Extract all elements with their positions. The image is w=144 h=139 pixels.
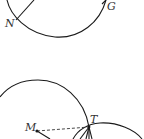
segment-m bbox=[37, 131, 50, 139]
geometry-diagram: N G M T bbox=[0, 0, 144, 139]
label-t: T bbox=[90, 113, 99, 126]
chord-line-n bbox=[16, 0, 34, 20]
top-circle-arc bbox=[7, 0, 106, 37]
top-figure: N G bbox=[4, 0, 116, 37]
label-n: N bbox=[4, 17, 15, 30]
label-g: G bbox=[107, 0, 116, 13]
label-m: M bbox=[24, 121, 37, 134]
small-circle-arc bbox=[73, 123, 142, 139]
point-t bbox=[88, 126, 91, 129]
bottom-figure: M T bbox=[0, 80, 142, 139]
